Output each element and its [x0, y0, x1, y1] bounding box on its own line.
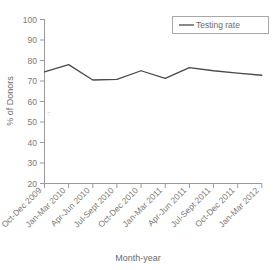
- y-tick-label: 40: [28, 138, 38, 148]
- y-tick-label: 30: [28, 158, 38, 168]
- y-tick-label: 80: [28, 56, 38, 66]
- y-tick-label: 60: [28, 97, 38, 107]
- y-tick-label: 50: [28, 117, 38, 127]
- chart-svg: 100 90 80 70 60 50 40 30 20 7 Oct-: [0, 0, 276, 270]
- x-axis-labels: Oct-Dec 2009 Jan-Mar 2010 Apr-Jun 2010 J…: [0, 185, 261, 229]
- y-tick-label: 90: [28, 35, 38, 45]
- y-tick-label: 100: [23, 15, 37, 25]
- scan-artifact: 7: [47, 110, 51, 118]
- legend: Testing rate: [173, 17, 269, 34]
- y-axis-ticks: 100 90 80 70 60 50 40 30 20: [23, 15, 45, 189]
- series-line-testing-rate: [45, 65, 262, 80]
- line-chart: 100 90 80 70 60 50 40 30 20 7 Oct-: [0, 0, 276, 270]
- y-tick-label: 70: [28, 76, 38, 86]
- x-axis-title: Month-year: [115, 253, 161, 263]
- legend-item-label: Testing rate: [196, 20, 240, 30]
- y-axis-title: % of Donors: [5, 76, 15, 126]
